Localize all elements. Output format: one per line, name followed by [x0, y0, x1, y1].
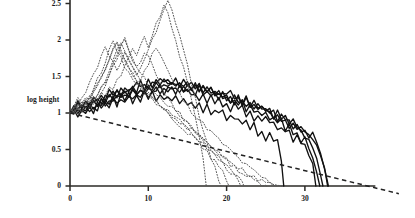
x-tick-label: 30	[301, 194, 309, 203]
y-tick-label: 2.5	[52, 0, 61, 8]
reference-line-group	[70, 113, 399, 194]
y-axis-label: log height	[27, 95, 59, 104]
chart-plot-area	[0, 0, 415, 218]
x-tick-label: 20	[223, 194, 231, 203]
y-tick-label: 0.5	[52, 145, 61, 154]
dashed-reference-line	[70, 113, 399, 194]
y-tick-label: 0	[57, 181, 61, 190]
y-tick-label: 1.5	[52, 72, 61, 81]
y-tick-label: 2	[57, 35, 61, 44]
x-tick-label: 0	[68, 194, 72, 203]
x-tick-label: 10	[145, 194, 153, 203]
solid-trajectory-3	[70, 83, 328, 186]
dotted-trajectory-5	[70, 38, 267, 186]
dotted-trajectory-6	[70, 42, 241, 186]
chart-figure: 00.511.522.50102030 log height	[0, 0, 415, 218]
series-group	[70, 0, 328, 186]
y-tick-label: 1	[57, 108, 61, 117]
